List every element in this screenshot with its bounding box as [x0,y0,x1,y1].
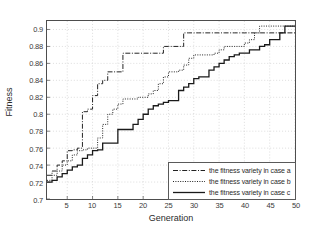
y-tick-label: 0.78 [29,127,43,136]
legend-line-sample-case-c [172,188,206,197]
legend-item-case-c: the fitness variety in case c [172,187,292,198]
legend-line-sample-case-a [172,166,206,175]
y-tick-label: 0.82 [29,93,43,102]
x-tick-label: 25 [164,201,172,210]
legend-label-case-c: the fitness variety in case c [209,189,290,196]
figure: 0.70.720.740.760.780.80.820.840.860.880.… [0,0,310,235]
x-axis-label: Generation [46,213,296,223]
legend-item-case-b: the fitness variety in case b [172,176,292,187]
y-tick-label: 0.76 [29,144,43,153]
x-tick-label: 20 [139,201,147,210]
y-tick-label: 0.88 [29,41,43,50]
y-tick-label: 0.84 [29,76,43,85]
y-tick-label: 0.86 [29,58,43,67]
x-tick-label: 10 [88,201,96,210]
x-tick-label: 35 [215,201,223,210]
x-tick-label: 50 [292,201,300,210]
x-tick-label: 40 [241,201,249,210]
x-tick-label: 5 [64,201,68,210]
y-axis-label: Fitness [4,72,14,132]
y-tick-label: 0.74 [29,161,43,170]
legend-line-sample-case-b [172,177,206,186]
y-tick-label: 0.8 [33,110,43,119]
y-tick-label: 0.9 [33,24,43,33]
x-tick-label: 15 [113,201,121,210]
legend-item-case-a: the fitness variety in case a [172,165,292,176]
legend: the fitness variety in case a the fitnes… [168,162,296,200]
y-tick-label: 0.72 [29,178,43,187]
x-tick-label: 30 [190,201,198,210]
y-tick-label: 0.7 [33,196,43,205]
series-line-2 [47,26,295,182]
legend-label-case-a: the fitness variety in case a [209,167,291,174]
legend-label-case-b: the fitness variety in case b [209,178,291,185]
x-tick-label: 45 [267,201,275,210]
series-line-0 [47,33,295,175]
